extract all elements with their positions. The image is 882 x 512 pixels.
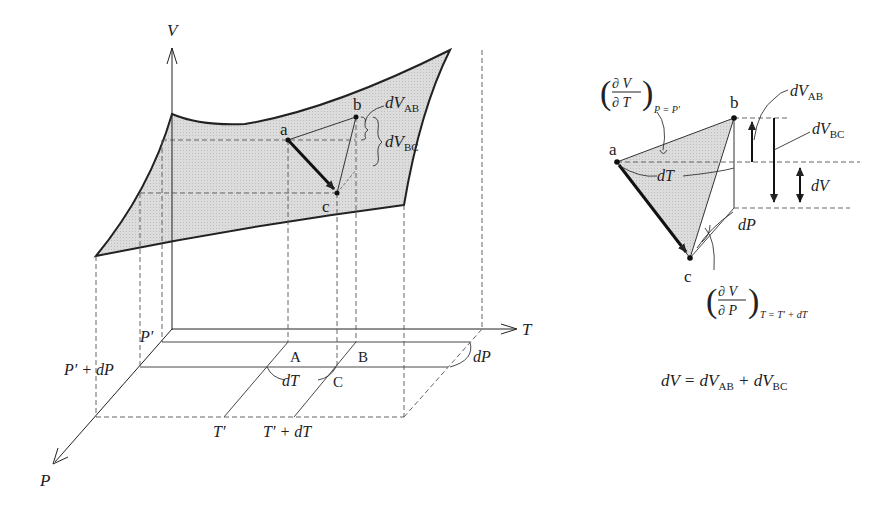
- p-axis: [55, 329, 172, 462]
- leader-right-dv-ab: [754, 90, 788, 140]
- p-axis-label: P: [39, 471, 50, 490]
- label-c: c: [322, 197, 330, 216]
- svg-text:(: (: [706, 282, 717, 320]
- svg-text:(: (: [600, 74, 611, 112]
- right-label-dv: dV: [811, 177, 831, 194]
- svg-text:∂ T: ∂ T: [612, 95, 631, 110]
- right-point-a: [614, 159, 620, 165]
- svg-text:∂ V: ∂ V: [612, 76, 632, 91]
- svg-text:P = P′: P = P′: [653, 104, 681, 115]
- pvt-surface: [96, 50, 450, 256]
- right-triangle-diagram: a b c ( ∂ V ∂ T ) P = P′ ( ∂ V ∂ P ) T =…: [600, 74, 860, 392]
- svg-text:T = T′ + dT: T = T′ + dT: [760, 309, 809, 320]
- partial-v-partial-p: ( ∂ V ∂ P ) T = T′ + dT: [706, 282, 809, 320]
- total-differential-equation: dV = dVAB + dVBC: [661, 371, 787, 392]
- label-A: A: [290, 349, 301, 365]
- svg-text:∂ V: ∂ V: [718, 284, 738, 299]
- point-b: [354, 115, 359, 120]
- label-a: a: [280, 120, 288, 139]
- label-p-prime: P′: [139, 328, 154, 345]
- label-dt: dT: [282, 372, 300, 389]
- t-axis-label: T: [522, 320, 533, 339]
- svg-text:): ): [642, 74, 653, 112]
- label-B: B: [358, 349, 368, 365]
- point-c: [335, 191, 340, 196]
- label-dp: dP: [473, 348, 491, 365]
- right-label-b: b: [730, 93, 739, 112]
- right-label-dt: dT: [657, 167, 675, 184]
- svg-text:∂ P: ∂ P: [718, 303, 737, 318]
- svg-text:): ): [748, 282, 759, 320]
- partial-v-partial-t: ( ∂ V ∂ T ) P = P′: [600, 74, 681, 115]
- right-label-a: a: [609, 140, 617, 159]
- right-point-c: [687, 255, 693, 261]
- label-C: C: [333, 374, 343, 390]
- right-label-dv-ab: dVAB: [790, 82, 823, 102]
- right-point-b: [731, 115, 737, 121]
- right-label-dp: dP: [738, 216, 756, 233]
- label-t-prime: T′: [213, 423, 226, 440]
- label-p-prime-plus-dp: P′ + dP: [63, 361, 114, 378]
- left-3d-diagram: V T P a b c dVAB dVBC P′ P′ + dP A B C d…: [39, 21, 533, 490]
- right-label-c: c: [684, 267, 692, 286]
- leader-right-dv-bc: [774, 132, 810, 150]
- label-t-prime-plus-dt: T′ + dT: [263, 423, 312, 440]
- right-label-dv-bc: dVBC: [812, 120, 844, 140]
- thermodynamic-surface-figure: V T P a b c dVAB dVBC P′ P′ + dP A B C d…: [0, 0, 882, 512]
- base-grid: [140, 342, 471, 417]
- label-b: b: [353, 95, 362, 114]
- v-axis-label: V: [167, 21, 180, 40]
